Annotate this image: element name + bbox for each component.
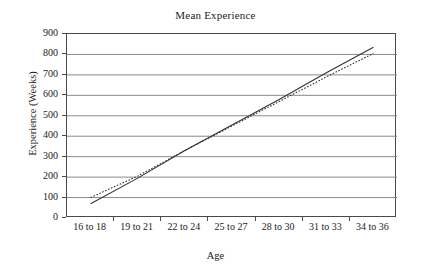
y-tick-label: 500 (14, 110, 58, 120)
y-tick-mark (62, 115, 66, 116)
y-tick-label: 100 (14, 192, 58, 202)
plot-area (66, 33, 396, 217)
chart-title: Mean Experience (0, 9, 431, 21)
y-tick-mark (62, 176, 66, 177)
y-tick-mark (62, 94, 66, 95)
x-tick-mark (113, 217, 114, 221)
y-tick-label: 600 (14, 89, 58, 99)
y-tick-label: 900 (14, 28, 58, 38)
y-tick-mark (62, 197, 66, 198)
y-tick-mark (62, 156, 66, 157)
gridlines-group (67, 54, 397, 197)
y-tick-mark (62, 217, 66, 218)
data-series-group (91, 47, 374, 203)
series-line-solid-line (91, 47, 374, 203)
x-tick-mark (160, 217, 161, 221)
x-tick-mark (207, 217, 208, 221)
y-tick-label: 700 (14, 69, 58, 79)
plot-svg (67, 34, 397, 218)
x-axis-title: Age (0, 250, 431, 261)
chart-screenshot: Mean Experience Experience (Weeks) 01002… (0, 0, 431, 277)
y-tick-mark (62, 53, 66, 54)
x-tick-label: 34 to 36 (340, 221, 404, 232)
y-tick-label: 800 (14, 48, 58, 58)
y-tick-mark (62, 33, 66, 34)
y-tick-label: 200 (14, 171, 58, 181)
x-tick-mark (302, 217, 303, 221)
y-tick-mark (62, 135, 66, 136)
y-tick-label: 300 (14, 151, 58, 161)
y-tick-label: 0 (14, 212, 58, 222)
x-tick-mark (255, 217, 256, 221)
x-tick-mark (349, 217, 350, 221)
y-tick-label: 400 (14, 130, 58, 140)
y-tick-mark (62, 74, 66, 75)
